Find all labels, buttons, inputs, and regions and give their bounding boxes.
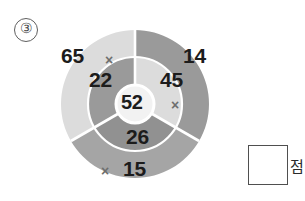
- multiply-icon-left: ×: [105, 52, 113, 68]
- outer-label-left: 65: [61, 44, 84, 68]
- multiply-icon-bottom: ×: [101, 163, 109, 179]
- answer-unit-label: 점: [290, 155, 304, 176]
- answer-box[interactable]: [248, 145, 288, 185]
- problem-number-marker: ③: [14, 18, 38, 42]
- outer-label-right: 14: [183, 44, 206, 68]
- outer-label-bottom: 15: [123, 157, 146, 181]
- worksheet-page: ③ 65 14 15 2: [0, 0, 305, 201]
- center-label: 52: [121, 91, 143, 114]
- multiply-icon-right: ×: [171, 97, 179, 113]
- inner-label-left: 22: [89, 68, 112, 92]
- inner-label-bottom: 26: [126, 125, 149, 149]
- inner-label-right: 45: [160, 68, 183, 92]
